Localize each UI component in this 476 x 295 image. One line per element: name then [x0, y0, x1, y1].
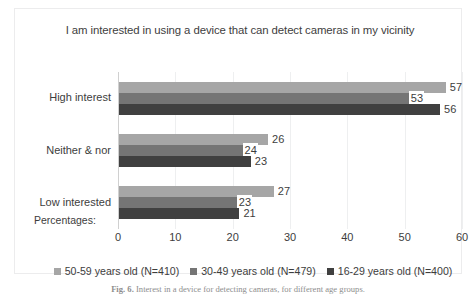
chart-legend: 50-59 years old (N=410)30-49 years old (… — [29, 265, 476, 277]
legend-item[interactable]: 50-59 years old (N=410) — [54, 265, 180, 277]
bar-value-label: 21 — [243, 206, 255, 220]
bar-value-label: 26 — [272, 132, 284, 146]
bar-value-label: 23 — [255, 154, 267, 168]
category-label: High interest — [49, 91, 111, 103]
bar[interactable] — [119, 156, 251, 167]
legend-item[interactable]: 16-29 years old (N=400) — [327, 265, 453, 277]
legend-swatch-icon — [54, 268, 61, 275]
bar-row: 56 — [119, 104, 463, 115]
bar-row: 26 — [119, 134, 463, 145]
value-axis-tick: 20 — [227, 231, 239, 243]
figure-caption: Fig. 6. Interest in a device for detecti… — [0, 284, 476, 294]
bar-group: 272321 — [119, 186, 463, 219]
chart-container: I am interested in using a device that c… — [14, 8, 462, 274]
value-axis-tick: 60 — [456, 231, 468, 243]
bar[interactable] — [119, 145, 257, 156]
legend-swatch-icon — [190, 268, 197, 275]
bar[interactable] — [119, 82, 446, 93]
category-axis-labels: High interestNeither & norLow interested — [15, 72, 111, 229]
legend-label: 16-29 years old (N=400) — [338, 265, 453, 277]
figure-caption-label: Fig. 6. — [111, 284, 134, 294]
legend-swatch-icon — [327, 268, 334, 275]
bar[interactable] — [119, 93, 423, 104]
value-axis-tick: 50 — [399, 231, 411, 243]
legend-label: 50-59 years old (N=410) — [65, 265, 180, 277]
bar-value-label: 57 — [450, 80, 462, 94]
percentages-note: Percentages: — [34, 214, 96, 226]
legend-label: 30-49 years old (N=479) — [201, 265, 316, 277]
bar-row: 53 — [119, 93, 463, 104]
value-axis-tick: 40 — [341, 231, 353, 243]
bar-row: 27 — [119, 186, 463, 197]
value-axis-tick: 0 — [115, 231, 121, 243]
figure-caption-text: Interest in a device for detecting camer… — [136, 284, 365, 294]
plot-area: 575356262423272321 — [118, 72, 462, 229]
bar-value-label: 56 — [444, 102, 456, 116]
value-axis-tick-labels: 0102030405060 — [118, 231, 462, 247]
bar-row: 23 — [119, 197, 463, 208]
category-label: Low interested — [39, 196, 111, 208]
bar[interactable] — [119, 208, 239, 219]
bar-group: 575356 — [119, 82, 463, 115]
bar[interactable] — [119, 104, 440, 115]
bar-row: 21 — [119, 208, 463, 219]
value-axis-tick: 30 — [284, 231, 296, 243]
chart-title: I am interested in using a device that c… — [45, 23, 435, 39]
bar-value-label: 53 — [409, 91, 424, 105]
legend-item[interactable]: 30-49 years old (N=479) — [190, 265, 316, 277]
value-axis-tick: 10 — [169, 231, 181, 243]
bar-value-label: 27 — [278, 184, 290, 198]
bar-group: 262423 — [119, 134, 463, 167]
bar[interactable] — [119, 197, 251, 208]
bar-row: 23 — [119, 156, 463, 167]
category-label: Neither & nor — [46, 144, 111, 156]
bar-row: 24 — [119, 145, 463, 156]
